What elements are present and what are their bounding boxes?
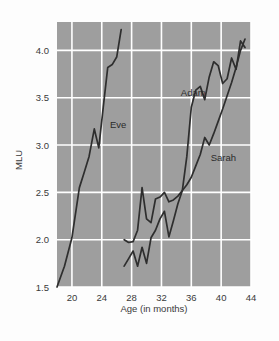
series-label-adam: Adam	[181, 87, 206, 98]
chart-canvas: 20242832364044 1.52.02.53.03.54.0 EveAda…	[0, 0, 279, 341]
x-tick-label: 32	[156, 292, 167, 303]
x-axis-title: Age (in months)	[120, 303, 187, 314]
y-tick-label: 3.0	[36, 140, 49, 151]
x-tick-label: 44	[246, 292, 257, 303]
x-tick-label: 24	[96, 292, 107, 303]
y-tick-label: 4.0	[36, 45, 49, 56]
chart-figure: 20242832364044 1.52.02.53.03.54.0 EveAda…	[0, 0, 279, 341]
x-tick-label: 40	[216, 292, 227, 303]
line-chart-svg: 20242832364044 1.52.02.53.03.54.0 EveAda…	[0, 0, 279, 341]
y-tick-label: 2.0	[36, 234, 49, 245]
y-tick-label: 1.5	[36, 282, 49, 293]
series-label-sarah: Sarah	[211, 152, 236, 163]
x-tick-label: 28	[126, 292, 137, 303]
series-label-eve: Eve	[110, 119, 126, 130]
y-tick-label: 3.5	[36, 92, 49, 103]
y-tick-label: 2.5	[36, 187, 49, 198]
x-tick-label: 20	[67, 292, 78, 303]
x-tick-label: 36	[186, 292, 197, 303]
y-axis-title: MLU	[13, 150, 24, 170]
